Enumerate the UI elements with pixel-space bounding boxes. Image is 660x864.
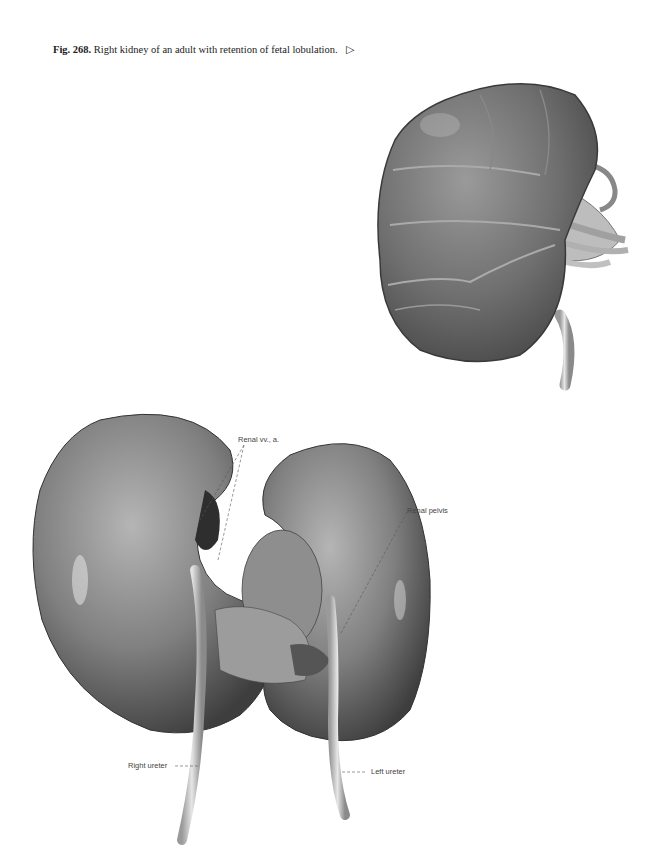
label-renal-vessels: Renal vv., a. [238,435,279,444]
fused-kidneys-figure [33,414,430,840]
label-left-ureter: Left ureter [371,767,405,776]
kidney-illustrations [0,0,660,864]
lobulated-kidney-figure [378,84,628,385]
label-right-ureter: Right ureter [128,761,167,770]
label-renal-pelvis: Renal pelvis [407,506,448,515]
